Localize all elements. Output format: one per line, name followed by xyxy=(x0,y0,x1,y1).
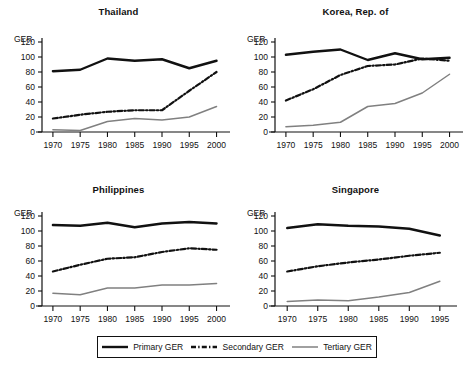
legend-label: Secondary GER xyxy=(222,343,283,352)
legend-label: Primary GER xyxy=(133,343,183,352)
y-tick-label: 0 xyxy=(30,301,35,311)
chart-panel-philippines: Philippines GER 020406080100120197019751… xyxy=(0,180,237,356)
y-tick-label: 60 xyxy=(259,256,269,266)
chart-panel-thailand: Thailand GER 020406080100120197019751980… xyxy=(0,2,237,178)
series-line xyxy=(53,59,217,72)
x-tick-label: 1970 xyxy=(43,314,62,324)
x-tick-label: 1985 xyxy=(369,314,388,324)
y-tick-label: 80 xyxy=(259,67,269,77)
x-tick-label: 1985 xyxy=(125,140,144,150)
x-tick-label: 1980 xyxy=(98,314,117,324)
y-tick-label: 80 xyxy=(259,241,269,251)
x-tick-label: 1995 xyxy=(430,314,449,324)
x-tick-label: 1975 xyxy=(308,314,327,324)
legend-swatch-primary-icon xyxy=(102,342,128,352)
chart-panel-singapore: Singapore GER 02040608010012019701975198… xyxy=(237,180,474,356)
series-line xyxy=(53,72,217,119)
y-tick-label: 80 xyxy=(26,241,36,251)
x-tick-label: 1970 xyxy=(278,314,297,324)
y-tick-label: 60 xyxy=(26,256,36,266)
y-tick-label: 100 xyxy=(21,52,35,62)
plot-area-korea: 0204060801001201970197519801985199019952… xyxy=(237,2,474,178)
y-tick-label: 20 xyxy=(259,286,269,296)
x-tick-label: 1990 xyxy=(386,140,405,150)
series-line xyxy=(53,222,217,227)
x-tick-label: 1995 xyxy=(180,314,199,324)
x-tick-label: 1995 xyxy=(413,140,432,150)
plot-area-singapore: 020406080100120197019751980198519901995 xyxy=(237,180,474,356)
y-tick-label: 40 xyxy=(259,271,269,281)
legend-item-secondary: Secondary GER xyxy=(191,342,283,352)
y-tick-label: 80 xyxy=(26,67,36,77)
legend-label: Tertiary GER xyxy=(323,343,372,352)
y-tick-label: 100 xyxy=(254,52,268,62)
chart-panel-korea: Korea, Rep. of GER 020406080100120197019… xyxy=(237,2,474,178)
x-tick-label: 1990 xyxy=(153,140,172,150)
series-line xyxy=(53,248,217,271)
y-tick-label: 60 xyxy=(259,82,269,92)
y-tick-label: 100 xyxy=(254,226,268,236)
x-tick-label: 1990 xyxy=(153,314,172,324)
legend-item-primary: Primary GER xyxy=(102,342,183,352)
x-tick-label: 1985 xyxy=(358,140,377,150)
y-tick-label: 0 xyxy=(263,127,268,137)
chart-legend: Primary GER Secondary GER Tertiary GER xyxy=(97,336,377,358)
x-tick-label: 1980 xyxy=(98,140,117,150)
series-line xyxy=(53,284,217,295)
series-line xyxy=(286,59,450,101)
plot-area-philippines: 0204060801001201970197519801985199019952… xyxy=(0,180,237,356)
y-tick-label: 120 xyxy=(21,211,35,221)
x-tick-label: 1990 xyxy=(400,314,419,324)
legend-swatch-secondary-icon xyxy=(191,342,217,352)
y-tick-label: 20 xyxy=(26,112,36,122)
legend-item-tertiary: Tertiary GER xyxy=(292,342,372,352)
y-tick-label: 20 xyxy=(26,286,36,296)
y-tick-label: 0 xyxy=(263,301,268,311)
x-tick-label: 1975 xyxy=(71,140,90,150)
y-tick-label: 120 xyxy=(254,211,268,221)
x-tick-label: 2000 xyxy=(207,314,226,324)
y-tick-label: 120 xyxy=(254,37,268,47)
y-tick-label: 20 xyxy=(259,112,269,122)
series-line xyxy=(287,253,440,272)
x-tick-label: 1995 xyxy=(180,140,199,150)
x-tick-label: 2000 xyxy=(207,140,226,150)
series-line xyxy=(286,74,450,127)
plot-area-thailand: 0204060801001201970197519801985199019952… xyxy=(0,2,237,178)
x-tick-label: 2000 xyxy=(440,140,459,150)
y-tick-label: 120 xyxy=(21,37,35,47)
series-line xyxy=(287,281,440,301)
x-tick-label: 1980 xyxy=(331,140,350,150)
y-tick-label: 100 xyxy=(21,226,35,236)
ger-multi-panel-figure: Thailand GER 020406080100120197019751980… xyxy=(0,0,474,372)
x-tick-label: 1975 xyxy=(71,314,90,324)
series-line xyxy=(287,224,440,235)
x-tick-label: 1970 xyxy=(276,140,295,150)
y-tick-label: 40 xyxy=(26,97,36,107)
y-tick-label: 40 xyxy=(26,271,36,281)
x-tick-label: 1975 xyxy=(304,140,323,150)
x-tick-label: 1980 xyxy=(339,314,358,324)
y-tick-label: 40 xyxy=(259,97,269,107)
y-tick-label: 0 xyxy=(30,127,35,137)
x-tick-label: 1970 xyxy=(43,140,62,150)
legend-swatch-tertiary-icon xyxy=(292,342,318,352)
x-tick-label: 1985 xyxy=(125,314,144,324)
y-tick-label: 60 xyxy=(26,82,36,92)
